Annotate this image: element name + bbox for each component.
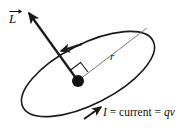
orbit-direction-arrow-top [61, 44, 82, 51]
physics-figure: L r I = current = qv [0, 0, 189, 139]
angular-momentum-label: L [9, 12, 16, 25]
current-label: I = current = qv [103, 107, 175, 119]
vector-arrow-accent-icon [9, 8, 23, 14]
radius-label: r [110, 51, 114, 62]
right-angle-marker [70, 63, 88, 73]
current-equals-text: = current = [107, 106, 164, 118]
orbit-direction-arrow-bottom [84, 107, 101, 119]
current-value: qv [164, 106, 175, 118]
point-charge-dot [72, 75, 84, 87]
